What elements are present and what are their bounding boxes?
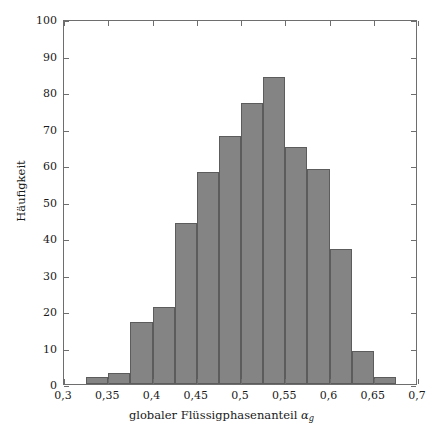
y-axis-tick-right [411,204,416,205]
x-axis-tick-top [197,21,198,26]
y-axis-tick-right [411,131,416,132]
y-axis-tick [64,350,69,351]
x-axis-title-text: globaler Flüssigphasenanteil [129,408,298,422]
histogram-bar [374,377,396,384]
y-axis-tick [64,58,69,59]
x-axis-tick-top [153,21,154,26]
x-axis-tick-top [285,21,286,26]
y-axis-tick-right [411,21,416,22]
y-axis-tick [64,94,69,95]
y-axis-tick-right [411,94,416,95]
x-axis-tick-top [330,21,331,26]
histogram-bar [175,223,197,384]
histogram-bar [330,249,352,384]
histogram-bar [241,103,263,384]
histogram-bar [263,77,285,384]
x-axis-tick [241,379,242,384]
x-axis-tick-top [418,21,419,26]
x-axis-tick-top [374,21,375,26]
x-axis-tick [197,379,198,384]
x-axis-tick [374,379,375,384]
histogram-bar [108,373,130,384]
y-axis-tick-label: 100 [17,15,57,26]
y-axis-tick [64,167,69,168]
y-axis-tick [64,131,69,132]
y-axis-tick-right [411,386,416,387]
histogram-bar [130,322,152,384]
x-axis-title-symbol-subscript: g [309,413,314,423]
y-axis-title: Häufigkeit [14,131,28,251]
y-axis-tick-label: 80 [17,88,57,99]
x-axis-tick-top [108,21,109,26]
y-axis-tick-right [411,277,416,278]
x-axis-tick [285,379,286,384]
y-axis-tick-label: 20 [17,307,57,318]
y-axis-tick [64,277,69,278]
histogram-bar [352,351,374,384]
y-axis-tick-right [411,167,416,168]
x-axis-tick-top [64,21,65,26]
x-axis-tick-label: 0,7 [387,390,443,401]
y-axis-tick-right [411,313,416,314]
x-axis-tick-top [241,21,242,26]
y-axis-tick-right [411,240,416,241]
y-axis-tick [64,204,69,205]
x-axis-tick [153,379,154,384]
x-axis-tick [64,379,65,384]
y-axis-tick-right [411,58,416,59]
y-axis-tick-label: 30 [17,271,57,282]
y-axis-tick [64,313,69,314]
histogram-bar [307,169,329,384]
x-axis-tick [330,379,331,384]
plot-area [64,21,416,384]
y-axis-tick-right [411,350,416,351]
histogram-bar [153,307,175,384]
x-axis-title-symbol: α [301,408,309,422]
y-axis-tick [64,240,69,241]
y-axis-tick-label: 90 [17,52,57,63]
y-axis-tick [64,386,69,387]
histogram-bar [197,172,219,384]
histogram-bar [86,377,108,384]
x-axis-tick [418,379,419,384]
histogram-bar [285,147,307,384]
y-axis-tick-label: 10 [17,344,57,355]
histogram-bar [219,136,241,384]
x-axis-tick [108,379,109,384]
x-axis-title: globaler Flüssigphasenanteil αg [0,408,443,423]
histogram-figure: 01020304050607080901000,30,350,40,450,50… [0,0,443,439]
plot-frame [63,20,417,385]
